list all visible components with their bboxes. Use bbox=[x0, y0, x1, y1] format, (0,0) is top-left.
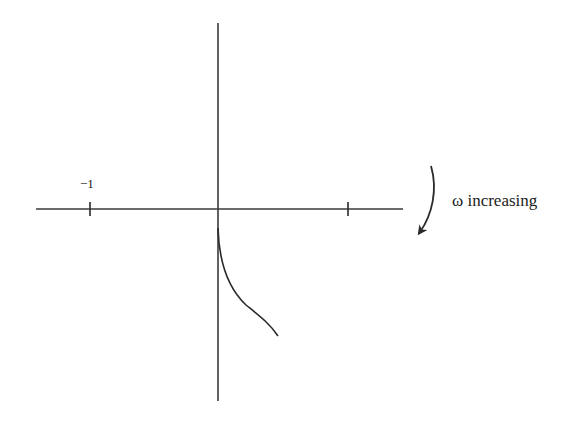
nyquist-diagram: −1 ω increasing bbox=[0, 0, 581, 426]
nyquist-curve bbox=[218, 228, 278, 336]
tick-label-minus-one: −1 bbox=[80, 176, 94, 192]
diagram-canvas bbox=[0, 0, 581, 426]
omega-increasing-label: ω increasing bbox=[452, 191, 537, 211]
curved-arrow-icon bbox=[420, 166, 434, 232]
